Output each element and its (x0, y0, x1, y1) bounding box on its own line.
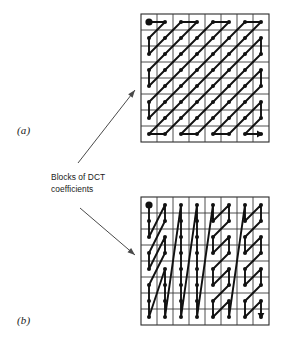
scan-node (243, 52, 247, 56)
scan-node (147, 52, 151, 56)
scan-node (179, 203, 183, 207)
scan-node (243, 251, 247, 255)
scan-node (147, 116, 151, 120)
scan-node (195, 203, 199, 207)
scan-node (211, 267, 215, 271)
scan-node (163, 36, 167, 40)
scan-node (211, 235, 215, 239)
scan-node (179, 132, 183, 136)
scan-node (227, 52, 231, 56)
scan-node (243, 36, 247, 40)
scan-node (259, 20, 263, 24)
scan-node (211, 100, 215, 104)
scan-node (179, 235, 183, 239)
scan-node (179, 267, 183, 271)
scan-node (227, 84, 231, 88)
scan-node (227, 315, 231, 319)
scan-node (211, 36, 215, 40)
scan-node (211, 68, 215, 72)
scan-node (147, 84, 151, 88)
scan-node (179, 219, 183, 223)
scan-node (243, 315, 247, 319)
scan-node (259, 84, 263, 88)
scan-node (179, 68, 183, 72)
scan-node (243, 203, 247, 207)
scan-node (195, 100, 199, 104)
panel-label-b: (b) (17, 314, 30, 326)
scan-node (163, 52, 167, 56)
scan-node (195, 251, 199, 255)
scan-node (259, 267, 263, 271)
scan-node (259, 203, 263, 207)
scan-node (195, 267, 199, 271)
scan-node (179, 251, 183, 255)
scan-node (211, 299, 215, 303)
scan-node (163, 116, 167, 120)
scan-node (195, 36, 199, 40)
scan-node (211, 203, 215, 207)
scan-node (243, 84, 247, 88)
scan-node (179, 84, 183, 88)
scan-node (211, 251, 215, 255)
scan-node (227, 299, 231, 303)
scan-node (179, 299, 183, 303)
scan-node (195, 132, 199, 136)
scan-node (211, 84, 215, 88)
scan-node (163, 203, 167, 207)
scan-node (227, 116, 231, 120)
caption-line-2: coefficients (51, 184, 143, 196)
scan-node (195, 20, 199, 24)
scan-node (163, 299, 167, 303)
caption-line-1: Blocks of DCT (51, 172, 143, 184)
scan-node (259, 219, 263, 223)
scan-node (211, 116, 215, 120)
scan-node (195, 235, 199, 239)
scan-node (195, 68, 199, 72)
scan-node (163, 219, 167, 223)
scan-node (227, 36, 231, 40)
scan-node (147, 299, 151, 303)
scan-node (195, 315, 199, 319)
scan-node (259, 100, 263, 104)
scan-node (163, 20, 167, 24)
scan-node (259, 52, 263, 56)
scan-node (195, 299, 199, 303)
scan-node (259, 299, 263, 303)
scan-node (179, 36, 183, 40)
scan-node (259, 36, 263, 40)
scan-node (163, 251, 167, 255)
scan-node (195, 283, 199, 287)
scan-node (147, 68, 151, 72)
scan-node (259, 235, 263, 239)
scan-node (163, 100, 167, 104)
scan-node (227, 20, 231, 24)
scan-node (147, 100, 151, 104)
scan-node (227, 283, 231, 287)
scan-node (179, 315, 183, 319)
scan-node (259, 251, 263, 255)
scan-node (211, 315, 215, 319)
scan-node (243, 219, 247, 223)
scan-node (147, 219, 151, 223)
scan-node (147, 132, 151, 136)
scan-node (163, 68, 167, 72)
scan-node (147, 251, 151, 255)
scan-node (243, 116, 247, 120)
scan-node (163, 235, 167, 239)
scan-node (195, 116, 199, 120)
scan-node (227, 219, 231, 223)
scan-node (179, 100, 183, 104)
scan-node (227, 251, 231, 255)
scan-node (179, 52, 183, 56)
scan-node (147, 235, 151, 239)
scan-node (259, 283, 263, 287)
panel-label-a: (a) (17, 124, 30, 136)
scan-node (243, 235, 247, 239)
scan-node (163, 132, 167, 136)
scan-start-node-dc (145, 18, 152, 25)
scan-start-node-dc (145, 201, 152, 208)
scan-node (147, 283, 151, 287)
scan-node (259, 68, 263, 72)
scan-node (227, 267, 231, 271)
arrow-to-panel-b (80, 208, 135, 255)
